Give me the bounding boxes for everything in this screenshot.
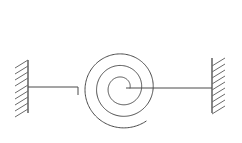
- left-wall-hatching: [15, 60, 28, 117]
- left-support-group: [15, 60, 28, 117]
- left-connecting-rod: [28, 87, 78, 95]
- spiral-spring-diagram: [0, 0, 242, 143]
- right-wall-hatching: [212, 58, 225, 114]
- spiral-coil-spring: [85, 54, 153, 128]
- right-support-group: [212, 58, 225, 114]
- diagram-canvas: [0, 0, 242, 143]
